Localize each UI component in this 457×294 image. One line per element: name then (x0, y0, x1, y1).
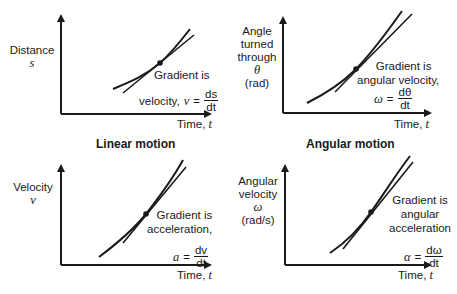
y-symbol: ω (234, 201, 282, 214)
y-symbol: θ (233, 64, 281, 77)
tangent-point (368, 209, 374, 215)
velocity-gradient-text: Gradient is acceleration, (153, 208, 212, 236)
angle-formula: ω = dθ dt (374, 86, 412, 111)
distance-y-label: Distance s (6, 44, 58, 70)
fraction: dθ dt (398, 86, 413, 111)
angular-velocity-y-label: Angular velocity ω (rad/s) (234, 175, 282, 227)
angle-y-label: Angle turned through θ (rad) (233, 25, 281, 90)
distance-formula: velocity, v = ds dt (139, 88, 218, 113)
tangent-point (143, 211, 149, 217)
distance-x-label: Time, t (177, 117, 212, 132)
angular-velocity-formula: α = dω dt (404, 244, 443, 269)
y-symbol: s (6, 57, 58, 70)
angular-velocity-x-label: Time, t (398, 268, 433, 283)
angular-velocity-gradient-text: Gradient is angular acceleration (386, 193, 454, 235)
distance-gradient-text: Gradient is (154, 68, 210, 82)
angular-motion-title: Angular motion (306, 137, 395, 151)
tangent-point (353, 66, 359, 72)
y-symbol: v (8, 194, 58, 207)
linear-motion-title: Linear motion (96, 137, 175, 151)
fraction: dv dt (194, 244, 208, 269)
velocity-formula: a = dv dt (173, 244, 208, 269)
tangent-point (157, 60, 163, 66)
fraction: ds dt (204, 88, 218, 113)
velocity-x-label: Time, t (177, 268, 212, 283)
velocity-y-label: Velocity v (8, 181, 58, 207)
fraction: dω dt (425, 244, 442, 269)
angle-gradient-text: Gradient is angular velocity, (364, 59, 439, 87)
angle-x-label: Time, t (394, 117, 429, 132)
